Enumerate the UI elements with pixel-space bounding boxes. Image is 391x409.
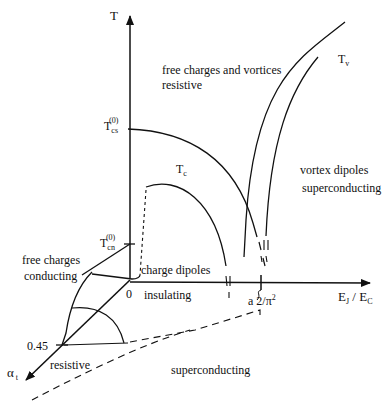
region-charge-dipoles: charge dipoles (141, 263, 211, 277)
region-right-line2: superconducting (302, 181, 381, 195)
alpha-baseline (64, 343, 128, 345)
alpha-tick-label: 0.45 (27, 339, 48, 353)
region-top-line2: resistive (162, 78, 202, 92)
region-left-line2: conducting (24, 269, 77, 283)
tc-curve (146, 184, 226, 266)
ej-ec-axis (130, 282, 370, 283)
tcs-curve (128, 129, 257, 237)
region-top-line1: free charges and vortices (162, 63, 282, 77)
tv-label: Tv (338, 52, 349, 68)
tv-curve-outer (244, 22, 345, 257)
region-bottom-superconducting: superconducting (171, 363, 250, 377)
charge-boundary (92, 274, 140, 279)
tcn0-label: Tcn(0) (100, 233, 116, 252)
tc-label: Tc (176, 162, 187, 178)
phase-diagram: T EJ / EC αt 0 0.45 a 2/π2 Tcs(0) Tcn(0)… (0, 0, 391, 409)
tv-curve-inner (266, 57, 318, 236)
tc-dash-ticks (226, 276, 230, 298)
base-dashed-upper (130, 310, 260, 342)
quarter-arc (72, 308, 124, 343)
region-right-line1: vortex dipoles (300, 163, 369, 177)
tv-dash-ticks (261, 240, 268, 262)
ej-ec-axis-label: EJ / EC (338, 289, 373, 306)
tcs0-label: Tcs(0) (104, 116, 119, 135)
alpha-axis-label: αt (7, 365, 19, 382)
region-left-line1: free charges (22, 253, 80, 267)
x-tick-label: a 2/π2 (248, 293, 276, 308)
t-axis-label: T (110, 8, 118, 23)
origin-label: 0 (126, 287, 132, 301)
region-insulating: insulating (144, 288, 191, 302)
region-bottom-resistive: resistive (50, 358, 90, 372)
